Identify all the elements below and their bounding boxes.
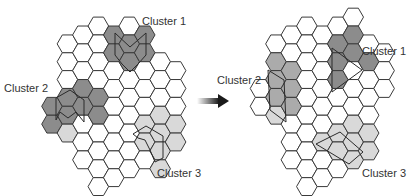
- hex-cell-light: [165, 115, 186, 133]
- hex-cell-white: [165, 80, 186, 98]
- cluster-label: Cluster 3: [362, 167, 406, 179]
- cluster-label: Cluster 2: [4, 82, 48, 94]
- hex-cell-dark: [134, 26, 155, 44]
- hex-cell-white: [165, 62, 186, 80]
- arrow-head: [218, 94, 229, 108]
- hex-cell-white: [343, 8, 364, 26]
- cluster-label: Cluster 3: [157, 167, 201, 179]
- hex-cell-white: [374, 62, 395, 80]
- cluster-label: Cluster 1: [142, 15, 186, 27]
- hex-cell-white: [374, 80, 395, 98]
- cluster-label: Cluster 2: [217, 74, 261, 86]
- cluster-label: Cluster 1: [362, 45, 406, 57]
- before-hex-grid: Cluster 1Cluster 2Cluster 3: [4, 15, 201, 196]
- transition-arrow-icon: [197, 94, 229, 108]
- hex-cell-white: [358, 106, 379, 124]
- hex-cell-light: [165, 133, 186, 151]
- after-hex-grid: Cluster 1Cluster 2Cluster 3: [217, 8, 406, 195]
- hex-cell-white: [165, 97, 186, 115]
- cluster-diagram: Cluster 1Cluster 2Cluster 3 Cluster 1Clu…: [0, 0, 419, 196]
- hex-cell-light: [358, 124, 379, 142]
- arrow-shaft: [197, 98, 219, 104]
